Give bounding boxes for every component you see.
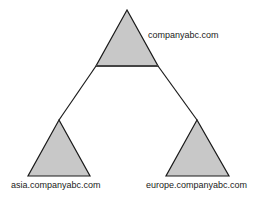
root-domain-label: companyabc.com xyxy=(148,30,219,40)
europe-domain-triangle xyxy=(166,120,229,176)
asia-domain-triangle xyxy=(28,120,90,176)
connector-root-to-asia xyxy=(59,66,96,120)
domain-tree-diagram xyxy=(0,0,263,199)
connector-root-to-europe xyxy=(158,66,197,120)
asia-domain-label: asia.companyabc.com xyxy=(11,180,101,190)
europe-domain-label: europe.companyabc.com xyxy=(146,180,247,190)
